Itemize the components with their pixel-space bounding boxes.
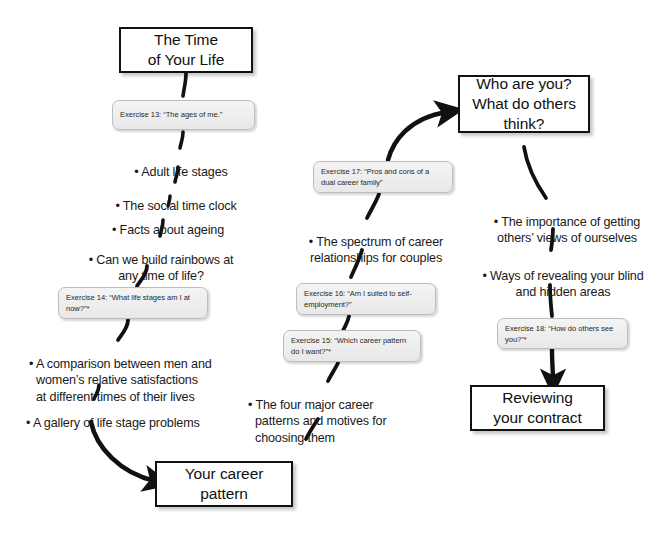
exercise-label-ex14: Exercise 14: “What life stages am I at n… (66, 293, 190, 313)
exercise-label-ex18: Exercise 18: “How do others see you?”* (505, 324, 613, 344)
topic-text: • The importance of getting others’ view… (494, 215, 640, 246)
topic-gallery-life-stage-problems: • A gallery of life stage problems (26, 398, 236, 431)
exercise-box-ex16[interactable]: Exercise 16: “Am I suited to self-employ… (296, 283, 436, 315)
edge-title-to-ex13 (183, 73, 186, 96)
topic-comparison-men-women: • A comparison between men and women’s r… (29, 339, 239, 406)
stage-box-time-of-your-life[interactable]: The Time of Your Life (119, 27, 253, 73)
exercise-label-ex15: Exercise 15: “Which career pattern do I … (291, 336, 406, 356)
stage-label-your-career-pattern: Your career pattern (185, 464, 263, 504)
topic-text: • The spectrum of career relationships f… (309, 235, 443, 266)
exercise-box-ex15[interactable]: Exercise 15: “Which career pattern do I … (283, 330, 421, 362)
stage-label-who-are-you: Who are you? What do others think? (472, 74, 576, 133)
topic-blind-hidden-areas: • Ways of revealing your blind and hidde… (473, 251, 653, 301)
exercise-label-ex17: Exercise 17: “Pros and cons of a dual ca… (321, 167, 429, 187)
stage-label-time-of-your-life: The Time of Your Life (148, 30, 224, 70)
edge-middle-to-who-are-you (388, 112, 447, 160)
edge-ex18-to-reviewing (552, 350, 553, 380)
exercise-box-ex17[interactable]: Exercise 17: “Pros and cons of a dual ca… (313, 161, 453, 193)
topic-spectrum-career-relationships: • The spectrum of career relationships f… (296, 217, 456, 267)
exercise-box-ex18[interactable]: Exercise 18: “How do others see you?”* (497, 318, 628, 349)
topic-text: • Can we build rainbows at any time of l… (89, 253, 234, 284)
edge-ex17-to-m1 (367, 194, 379, 218)
stage-box-your-career-pattern[interactable]: Your career pattern (155, 461, 293, 507)
edge-ex16-to-ex15 (343, 316, 349, 331)
edge-ex14-to-t5 (118, 320, 128, 340)
topic-importance-others-views: • The importance of getting others’ view… (478, 197, 656, 247)
stage-label-reviewing-your-contract: Reviewing your contract (493, 388, 581, 428)
exercise-box-ex14[interactable]: Exercise 14: “What life stages am I at n… (58, 287, 208, 319)
topic-four-major-career-patterns: • The four major career patterns and mot… (248, 380, 408, 447)
diagram-canvas: The Time of Your Life Who are you? What … (0, 0, 659, 535)
topic-text: • Ways of revealing your blind and hidde… (482, 269, 643, 300)
edge-ex13-to-t1 (180, 132, 183, 148)
exercise-label-ex13: Exercise 13: “The ages of me.” (120, 110, 222, 121)
topic-facts-about-ageing: • Facts about ageing (90, 205, 246, 238)
topic-adult-life-stages: • Adult life stages (108, 147, 254, 180)
exercise-box-ex13[interactable]: Exercise 13: “The ages of me.” (112, 100, 255, 130)
edge-ex15-to-m2 (328, 363, 338, 381)
topic-text: • Adult life stages (134, 165, 227, 179)
topic-text: • The four major career patterns and mot… (248, 397, 387, 447)
topic-build-rainbows: • Can we build rainbows at any time of l… (73, 235, 249, 285)
topic-text: • A gallery of life stage problems (26, 415, 200, 432)
edge-who-to-r1 (524, 147, 546, 198)
exercise-label-ex16: Exercise 16: “Am I suited to self-employ… (304, 289, 412, 309)
stage-box-who-are-you[interactable]: Who are you? What do others think? (458, 75, 590, 133)
stage-box-reviewing-your-contract[interactable]: Reviewing your contract (470, 385, 605, 431)
